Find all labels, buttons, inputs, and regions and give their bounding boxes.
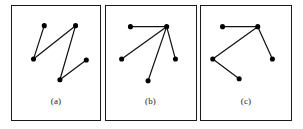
graph-node: [172, 57, 177, 62]
graph-edge: [258, 27, 273, 59]
graph-node: [84, 57, 89, 62]
graph-edge: [60, 60, 86, 80]
panel-c: (c): [200, 5, 292, 121]
panel-b: (b): [105, 5, 197, 121]
panel-row: (a) (b) (c): [11, 5, 292, 121]
graph-node: [164, 24, 169, 29]
graph-node: [237, 76, 242, 81]
graph-node: [270, 57, 275, 62]
graph-edge: [60, 26, 76, 80]
graph-edge: [34, 26, 76, 59]
graph-edge: [148, 27, 167, 81]
graph-node: [57, 77, 62, 82]
panel-c-label: (c): [201, 97, 291, 106]
graph-edge: [121, 27, 166, 59]
graph-edge: [213, 59, 239, 79]
graph-node: [73, 23, 78, 28]
graph-edge: [213, 27, 258, 59]
graph-node: [210, 57, 215, 62]
panel-a-label: (a): [12, 97, 100, 106]
graph-node: [31, 57, 36, 62]
graph-node: [127, 24, 132, 29]
graph-node: [255, 24, 260, 29]
graph-edge: [166, 27, 175, 59]
panel-b-label: (b): [106, 97, 196, 106]
graph-node: [220, 24, 225, 29]
figure-root: (a) (b) (c): [0, 0, 303, 129]
graph-node: [119, 57, 124, 62]
graph-node: [145, 78, 150, 83]
panel-a: (a): [11, 5, 101, 121]
graph-node: [42, 23, 47, 28]
